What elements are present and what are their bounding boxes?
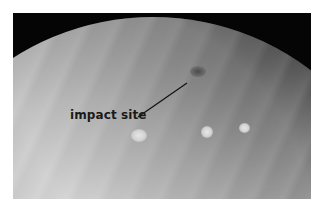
impact-dark-spot [190,66,206,77]
white-oval [201,126,213,138]
jupiter-disk [13,17,311,199]
limb-shading [13,17,311,199]
jupiter-photo [13,13,311,199]
white-oval [239,123,250,133]
impact-site-label: impact site [70,108,147,122]
white-oval [131,129,147,142]
